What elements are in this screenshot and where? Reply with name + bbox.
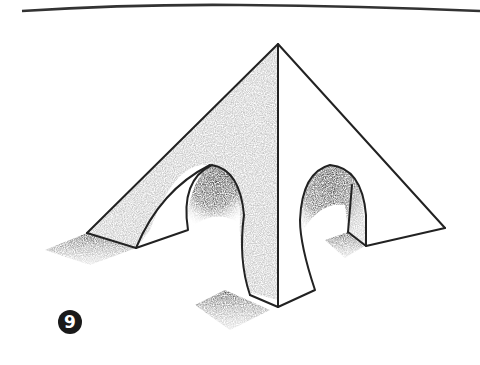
- illustration-canvas: 9: [0, 0, 480, 365]
- top-rule-line: [22, 5, 480, 11]
- step-number-badge: 9: [58, 310, 82, 334]
- center-base-shadow: [195, 290, 270, 330]
- pyramid-left-face: [87, 44, 278, 300]
